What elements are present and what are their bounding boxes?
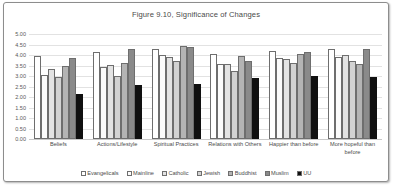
legend-label: UU (303, 170, 311, 176)
bar (210, 54, 217, 139)
bar (48, 69, 55, 139)
bar (107, 65, 114, 139)
bar (180, 46, 187, 139)
bar (121, 63, 128, 139)
bar (100, 67, 107, 139)
bar (276, 58, 283, 139)
x-axis-labels: BeliefsActions/LifestyleSpiritual Practi… (29, 141, 382, 163)
bar (238, 56, 245, 139)
y-axis-tick-label: 4.50 (15, 42, 26, 48)
bar (194, 84, 201, 139)
y-axis-tick-label: 0.50 (15, 126, 26, 132)
x-axis-category-label: Beliefs (29, 141, 88, 163)
legend-item[interactable]: Buddhist (228, 170, 256, 176)
bar (187, 47, 194, 139)
bar (173, 61, 180, 139)
bar (304, 52, 311, 139)
y-axis-tick-label: 0.00 (15, 136, 26, 142)
bar (349, 61, 356, 139)
chart-frame: Figure 9.10, Significance of Changes 5.0… (3, 2, 389, 182)
bar-group (323, 34, 382, 139)
legend-item[interactable]: Jewish (197, 170, 221, 176)
bar (217, 64, 224, 139)
bar (69, 58, 76, 139)
bar (76, 94, 83, 139)
bar (245, 61, 252, 139)
x-axis-category-label: Actions/Lifestyle (88, 141, 147, 163)
legend-item[interactable]: UU (297, 170, 312, 176)
legend-label: Muslim (271, 170, 289, 176)
y-axis-tick-label: 1.00 (15, 115, 26, 121)
legend-item[interactable]: Catholic (162, 170, 189, 176)
legend-item[interactable]: Mainline (127, 170, 154, 176)
bar (166, 57, 173, 139)
y-axis-tick-label: 4.00 (15, 52, 26, 58)
bar-group (29, 34, 88, 139)
y-axis-tick-label: 3.00 (15, 73, 26, 79)
bar-group (88, 34, 147, 139)
bar (283, 59, 290, 139)
bar (62, 66, 69, 139)
bar (252, 78, 259, 139)
legend-swatch-icon (162, 171, 167, 176)
y-axis-tick-label: 1.50 (15, 105, 26, 111)
bar (135, 85, 142, 139)
y-axis-tick-label: 2.50 (15, 84, 26, 90)
bar (363, 49, 370, 139)
x-axis-category-label: Relations with Others (205, 141, 264, 163)
bar (297, 54, 304, 139)
bar (34, 56, 41, 139)
chart-title: Figure 9.10, Significance of Changes (4, 10, 388, 19)
bar-group (147, 34, 206, 139)
bar (152, 49, 159, 139)
bar (370, 77, 377, 139)
legend-label: Evangelicals (87, 170, 118, 176)
bar-group (205, 34, 264, 139)
bar (224, 64, 231, 139)
bar (342, 55, 349, 139)
legend-label: Mainline (133, 170, 154, 176)
y-axis-tick-label: 2.00 (15, 94, 26, 100)
bar-groups (29, 34, 382, 139)
x-axis-category-label: Spiritual Practices (147, 141, 206, 163)
x-axis-category-label: Happier than before (264, 141, 323, 163)
legend-label: Buddhist (235, 170, 257, 176)
chart-legend: EvangelicalsMainlineCatholicJewishBuddhi… (4, 170, 388, 176)
y-axis-labels: 5.004.504.003.503.002.502.001.501.000.50… (4, 34, 27, 139)
bar (335, 57, 342, 139)
bar (356, 64, 363, 139)
bar (114, 76, 121, 139)
y-axis-tick-label: 3.50 (15, 63, 26, 69)
bar (311, 76, 318, 139)
legend-swatch-icon (265, 171, 270, 176)
legend-swatch-icon (81, 171, 86, 176)
legend-swatch-icon (197, 171, 202, 176)
x-axis-category-label: More hopeful than before (323, 141, 382, 163)
bar (41, 75, 48, 139)
bar (290, 63, 297, 139)
legend-swatch-icon (228, 171, 233, 176)
legend-label: Jewish (203, 170, 220, 176)
legend-item[interactable]: Evangelicals (81, 170, 119, 176)
legend-label: Catholic (168, 170, 188, 176)
plot-area (29, 34, 382, 139)
bar (159, 55, 166, 139)
bar (55, 77, 62, 139)
gridline (29, 139, 382, 140)
bar (231, 71, 238, 139)
legend-item[interactable]: Muslim (265, 170, 289, 176)
bar (93, 52, 100, 139)
bar (328, 49, 335, 140)
legend-swatch-icon (127, 171, 132, 176)
bar (128, 49, 135, 139)
bar-group (264, 34, 323, 139)
bar (269, 51, 276, 139)
y-axis-tick-label: 5.00 (15, 31, 26, 37)
legend-swatch-icon (297, 171, 302, 176)
